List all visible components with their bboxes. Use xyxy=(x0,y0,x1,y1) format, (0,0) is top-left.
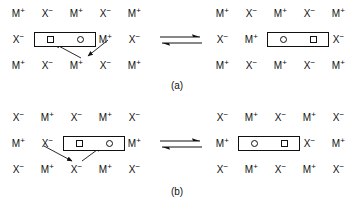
lattice-row: M+ X− M+ X− M+ xyxy=(208,4,353,24)
ion-site: X− xyxy=(237,9,266,19)
ion-site: X− xyxy=(324,165,353,175)
ion-site: M+ xyxy=(237,35,266,45)
ion-site: M+ xyxy=(208,61,237,71)
panel-caption-a: (a) xyxy=(157,80,197,91)
lattice-row: M+ X− M+ X− M+ xyxy=(208,56,353,76)
ion-site: M+ xyxy=(266,61,295,71)
ion-site: M+ xyxy=(266,9,295,19)
panel-a: M+ X− M+ X− M+ X− M+ X− M+ X− M+ X− M+ xyxy=(0,0,355,104)
ion-site: M+ xyxy=(324,61,353,71)
lattice-a-right: M+ X− M+ X− M+ X− M+ X− M+ X− M+ X− M+ xyxy=(208,0,353,88)
lattice-row: X− M+ X− M+ X− xyxy=(208,108,353,128)
ion-site: M+ xyxy=(295,113,324,123)
defect-pair-box xyxy=(63,136,125,151)
ion-site: M+ xyxy=(324,9,353,19)
ion-site: X− xyxy=(208,35,237,45)
defect-pair-box xyxy=(267,32,329,47)
ion-site: M+ xyxy=(295,165,324,175)
defect-pair-box xyxy=(34,32,96,47)
ion-site: X− xyxy=(208,165,237,175)
ion-site: X− xyxy=(237,61,266,71)
defect-pair-box xyxy=(238,136,300,151)
lattice-b-right: X− M+ X− M+ X− M+ X− M+ X− M+ X− M+ X− xyxy=(208,104,353,192)
ion-site: X− xyxy=(295,61,324,71)
ion-site: X− xyxy=(324,113,353,123)
lattice-b-left: X− M+ X− M+ X− M+ X− M+ X− M+ X− M+ X− xyxy=(4,104,149,192)
equilibrium-arrow-b xyxy=(158,136,204,152)
panel-caption-b: (b) xyxy=(157,186,197,197)
vacancy-square-icon xyxy=(310,36,317,43)
ion-site: M+ xyxy=(237,165,266,175)
vacancy-square-icon xyxy=(281,140,288,147)
vacancy-circle-icon xyxy=(280,36,287,43)
ion-site: M+ xyxy=(324,139,353,149)
ion-site: M+ xyxy=(237,113,266,123)
vacancy-square-icon xyxy=(76,140,83,147)
ion-site: X− xyxy=(266,165,295,175)
ion-site: X− xyxy=(266,113,295,123)
lattice-a-left: M+ X− M+ X− M+ X− M+ X− M+ X− M+ X− M+ xyxy=(4,0,149,88)
equilibrium-arrow-a xyxy=(158,32,204,48)
ion-site: X− xyxy=(295,9,324,19)
ion-site: X− xyxy=(208,113,237,123)
ion-site: M+ xyxy=(208,139,237,149)
vacancy-circle-icon xyxy=(106,140,113,147)
lattice-row: X− M+ X− M+ X− xyxy=(208,160,353,180)
vacancy-circle-icon xyxy=(251,140,258,147)
ion-site: M+ xyxy=(208,9,237,19)
vacancy-circle-icon xyxy=(77,36,84,43)
panel-b: X− M+ X− M+ X− M+ X− M+ X− M+ X− M+ X− xyxy=(0,104,355,208)
vacancy-square-icon xyxy=(47,36,54,43)
